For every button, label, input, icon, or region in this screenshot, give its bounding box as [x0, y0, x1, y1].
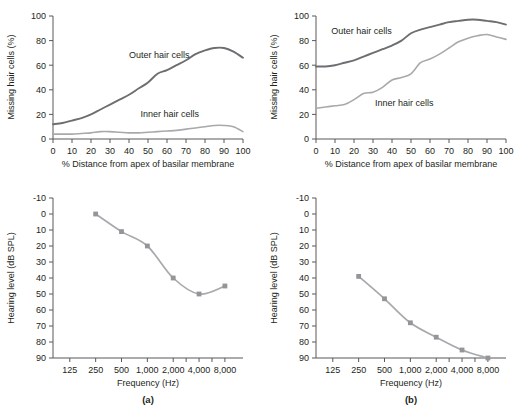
cochleogram-a-series: Outer hair cellsInner hair cells	[53, 48, 243, 135]
x-tick-label: 30	[368, 146, 378, 156]
y-axis-title: Missing hair cells (%)	[269, 34, 279, 119]
x-tick-label: 80	[200, 146, 210, 156]
x-tick-label: 8,000	[477, 365, 500, 375]
data-point-marker	[223, 284, 228, 289]
x-tick-label: 2,000	[162, 365, 185, 375]
x-tick-label: 40	[124, 146, 134, 156]
chart-audiogram-a: -100102030405060708090 1252505001,0002,0…	[0, 190, 263, 409]
y-tick-label: 40	[36, 273, 46, 283]
y-axis-title: Hearing level (dB SPL)	[6, 232, 16, 324]
axis-lines	[53, 16, 243, 139]
data-point-marker	[119, 229, 124, 234]
y-tick-label: 20	[36, 110, 46, 120]
x-tick-label: 250	[351, 365, 366, 375]
series-line-hearing-threshold	[96, 214, 225, 294]
series-label-inner-hair-cells: Inner hair cells	[375, 98, 434, 108]
panel-label-b: (b)	[405, 394, 417, 405]
x-tick-label: 0	[313, 146, 318, 156]
chart-cochleogram-b: 020406080100 0102030405060708090100 Oute…	[263, 0, 526, 190]
data-point-marker	[356, 274, 361, 279]
audiogram-a-xticks: 1252505001,0002,0004,0008,000	[62, 358, 236, 375]
y-tick-label: 80	[299, 337, 309, 347]
cochleogram-b-xticks: 0102030405060708090100	[313, 139, 513, 156]
series-label-outer-hair-cells: Outer hair cells	[129, 50, 190, 60]
y-tick-label: 0	[304, 209, 309, 219]
x-tick-label: 125	[325, 365, 340, 375]
y-tick-label: 100	[31, 11, 46, 21]
series-label-inner-hair-cells: Inner hair cells	[140, 109, 199, 119]
y-axis-title: Missing hair cells (%)	[6, 34, 16, 119]
x-axis-title: Frequency (Hz)	[117, 378, 179, 388]
data-point-marker	[460, 348, 465, 353]
y-tick-label: 80	[299, 36, 309, 46]
y-tick-label: 50	[299, 289, 309, 299]
y-tick-label: 60	[299, 61, 309, 71]
cochleogram-a-yticks: 020406080100	[31, 11, 53, 144]
y-tick-label: 10	[36, 225, 46, 235]
y-tick-label: 60	[299, 305, 309, 315]
cochleogram-a-svg: 020406080100 0102030405060708090100 Oute…	[0, 0, 263, 190]
y-tick-label: 20	[299, 110, 309, 120]
series-line-inner-hair-cells	[53, 125, 243, 134]
cochleogram-b-svg: 020406080100 0102030405060708090100 Oute…	[263, 0, 526, 190]
x-tick-label: 125	[62, 365, 77, 375]
y-tick-label: 0	[41, 209, 46, 219]
x-tick-label: 70	[444, 146, 454, 156]
y-tick-label: 40	[36, 85, 46, 95]
audiogram-b-svg: -100102030405060708090 1252505001,0002,0…	[263, 190, 526, 409]
audiogram-a-series	[93, 212, 227, 297]
x-tick-label: 10	[330, 146, 340, 156]
y-tick-label: 90	[36, 353, 46, 363]
x-tick-label: 500	[377, 365, 392, 375]
y-tick-label: 30	[36, 257, 46, 267]
x-tick-label: 100	[498, 146, 513, 156]
y-tick-label: 0	[41, 134, 46, 144]
cochleogram-b-yticks: 020406080100	[294, 11, 316, 144]
y-tick-label: 60	[36, 61, 46, 71]
y-tick-label: -10	[296, 193, 309, 203]
x-tick-label: 50	[406, 146, 416, 156]
y-tick-label: 10	[299, 225, 309, 235]
x-tick-label: 250	[88, 365, 103, 375]
axis-lines	[53, 198, 243, 358]
y-tick-label: 20	[36, 241, 46, 251]
data-point-marker	[382, 296, 387, 301]
data-point-marker	[197, 292, 202, 297]
cochleogram-a-axes	[53, 16, 243, 139]
x-axis-title: % Distance from apex of basilar membrane	[62, 159, 235, 169]
y-tick-label: 20	[299, 241, 309, 251]
y-tick-label: 70	[299, 321, 309, 331]
y-tick-label: 90	[299, 353, 309, 363]
x-tick-label: 50	[143, 146, 153, 156]
series-label-outer-hair-cells: Outer hair cells	[331, 26, 392, 36]
x-tick-label: 500	[114, 365, 129, 375]
x-axis-title: Frequency (Hz)	[380, 378, 442, 388]
series-line-hearing-threshold	[359, 276, 488, 358]
data-point-marker	[486, 356, 491, 361]
x-tick-label: 30	[105, 146, 115, 156]
chart-cochleogram-a: 020406080100 0102030405060708090100 Oute…	[0, 0, 263, 190]
x-axis-title: % Distance from apex of basilar membrane	[325, 159, 498, 169]
x-tick-label: 80	[463, 146, 473, 156]
x-tick-label: 1,000	[399, 365, 422, 375]
x-tick-label: 0	[50, 146, 55, 156]
audiogram-a-yticks: -100102030405060708090	[33, 193, 53, 363]
cochleogram-a-xticks: 0102030405060708090100	[50, 139, 250, 156]
audiogram-b-series	[356, 274, 490, 360]
data-point-marker	[171, 276, 176, 281]
x-tick-label: 1,000	[136, 365, 159, 375]
y-tick-label: 70	[36, 321, 46, 331]
data-point-marker	[93, 212, 98, 217]
x-tick-label: 8,000	[214, 365, 237, 375]
x-tick-label: 20	[86, 146, 96, 156]
y-tick-label: 0	[304, 134, 309, 144]
y-tick-label: 50	[36, 289, 46, 299]
audiogram-a-svg: -100102030405060708090 1252505001,0002,0…	[0, 190, 263, 409]
y-tick-label: 100	[294, 11, 309, 21]
x-tick-label: 4,000	[188, 365, 211, 375]
y-tick-label: 40	[299, 273, 309, 283]
y-tick-label: 80	[36, 337, 46, 347]
data-point-marker	[145, 244, 150, 249]
x-tick-label: 4,000	[451, 365, 474, 375]
x-tick-label: 70	[181, 146, 191, 156]
